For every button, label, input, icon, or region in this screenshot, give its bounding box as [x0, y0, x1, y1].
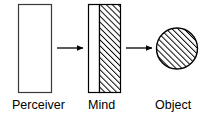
shape-object-circle	[157, 28, 198, 69]
shape-perceiver-rect	[19, 5, 52, 93]
label-perceiver: Perceiver	[12, 98, 65, 112]
label-mind: Mind	[88, 98, 115, 112]
shape-mind-rect-hatched	[100, 5, 121, 93]
shape-mind-rect-white	[89, 5, 100, 93]
label-object: Object	[155, 98, 191, 112]
diagram-canvas: Perceiver Mind Object	[0, 0, 208, 117]
